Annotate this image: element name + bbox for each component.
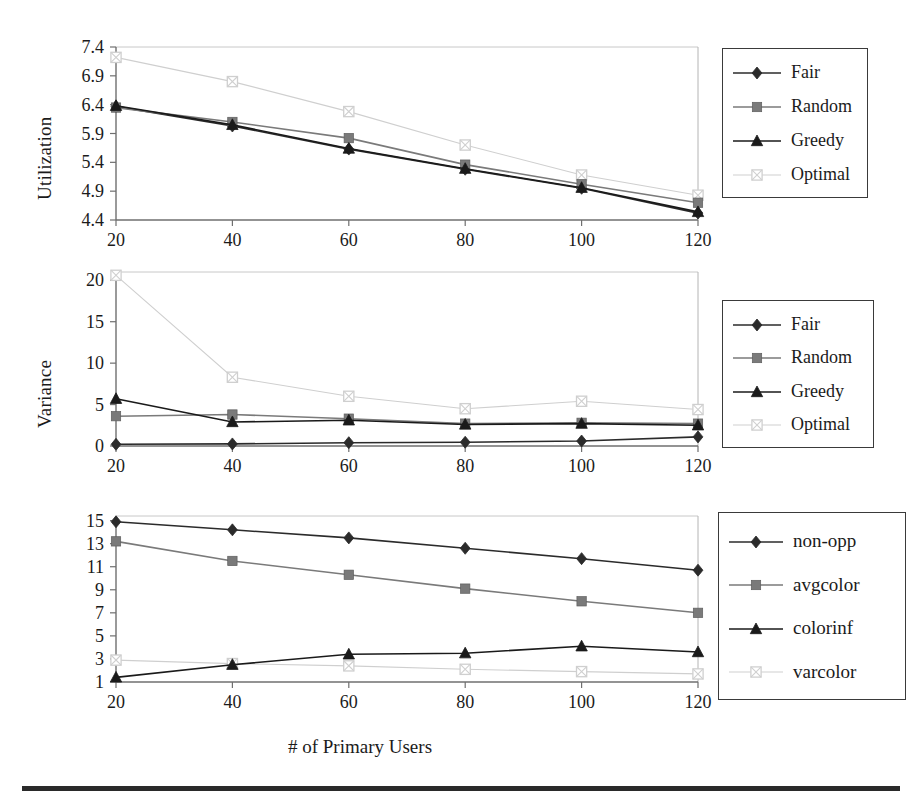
- legend-label: Optimal: [791, 165, 850, 183]
- legend-item-random[interactable]: Random: [731, 97, 857, 115]
- legend-item-fair[interactable]: Fair: [731, 63, 857, 81]
- series-colorinf: [110, 640, 703, 682]
- legend-label: Greedy: [791, 131, 844, 149]
- legend-label: varcolor: [793, 662, 856, 681]
- series-avgcolor: [111, 537, 702, 618]
- legend-key-square-cross-icon: [727, 663, 785, 679]
- legend-key-diamond-icon: [727, 533, 785, 549]
- series-optimal: [111, 52, 703, 200]
- legend-item-greedy[interactable]: Greedy: [731, 131, 857, 149]
- series-varcolor: [111, 655, 703, 679]
- legend-label: Fair: [791, 63, 820, 81]
- series-random: [111, 410, 702, 428]
- legend-label: Random: [791, 97, 852, 115]
- series-optimal: [111, 270, 703, 414]
- legend-key-triangle-icon: [727, 620, 785, 636]
- legend-label: Greedy: [791, 382, 844, 400]
- legend-item-varcolor[interactable]: varcolor: [727, 662, 895, 681]
- legend-utilization: FairRandomGreedyOptimal: [722, 48, 868, 198]
- x-axis-title: # of Primary Users: [0, 736, 720, 758]
- legend-key-square-icon: [731, 349, 783, 365]
- legend-label: avgcolor: [793, 575, 859, 594]
- legend-list: FairRandomGreedyOptimal: [731, 55, 857, 191]
- legend-list: non-oppavgcolorcolorinfvarcolor: [727, 519, 895, 693]
- legend-item-colorinf[interactable]: colorinf: [727, 618, 895, 637]
- legend-list: FairRandomGreedyOptimal: [731, 307, 863, 441]
- legend-color-schemes: non-oppavgcolorcolorinfvarcolor: [718, 512, 906, 700]
- series-non-opp: [111, 516, 703, 576]
- figure-root: 4.44.95.45.96.46.97.420406080100120Utili…: [0, 0, 922, 799]
- legend-item-avgcolor[interactable]: avgcolor: [727, 575, 895, 594]
- legend-label: Optimal: [791, 415, 850, 433]
- legend-key-square-icon: [731, 98, 783, 114]
- series-greedy: [110, 393, 703, 430]
- y-axis-title: Utilization: [34, 117, 56, 200]
- legend-key-square-icon: [727, 576, 785, 592]
- bottom-rule: [22, 786, 900, 791]
- legend-label: non-opp: [793, 531, 856, 550]
- legend-label: Random: [791, 348, 852, 366]
- legend-item-fair[interactable]: Fair: [731, 315, 863, 333]
- series-fair: [111, 431, 703, 450]
- legend-variance: FairRandomGreedyOptimal: [722, 300, 874, 448]
- legend-key-diamond-icon: [731, 64, 783, 80]
- legend-key-triangle-icon: [731, 132, 783, 148]
- legend-item-optimal[interactable]: Optimal: [731, 165, 857, 183]
- legend-item-greedy[interactable]: Greedy: [731, 382, 863, 400]
- legend-label: colorinf: [793, 618, 853, 637]
- y-axis-title: Variance: [34, 360, 56, 428]
- legend-key-square-cross-icon: [731, 416, 783, 432]
- legend-item-random[interactable]: Random: [731, 348, 863, 366]
- legend-label: Fair: [791, 315, 820, 333]
- legend-key-diamond-icon: [731, 316, 783, 332]
- legend-key-triangle-icon: [731, 383, 783, 399]
- legend-item-optimal[interactable]: Optimal: [731, 415, 863, 433]
- series-random: [111, 103, 702, 208]
- legend-item-non-opp[interactable]: non-opp: [727, 531, 895, 550]
- legend-key-square-cross-icon: [731, 166, 783, 182]
